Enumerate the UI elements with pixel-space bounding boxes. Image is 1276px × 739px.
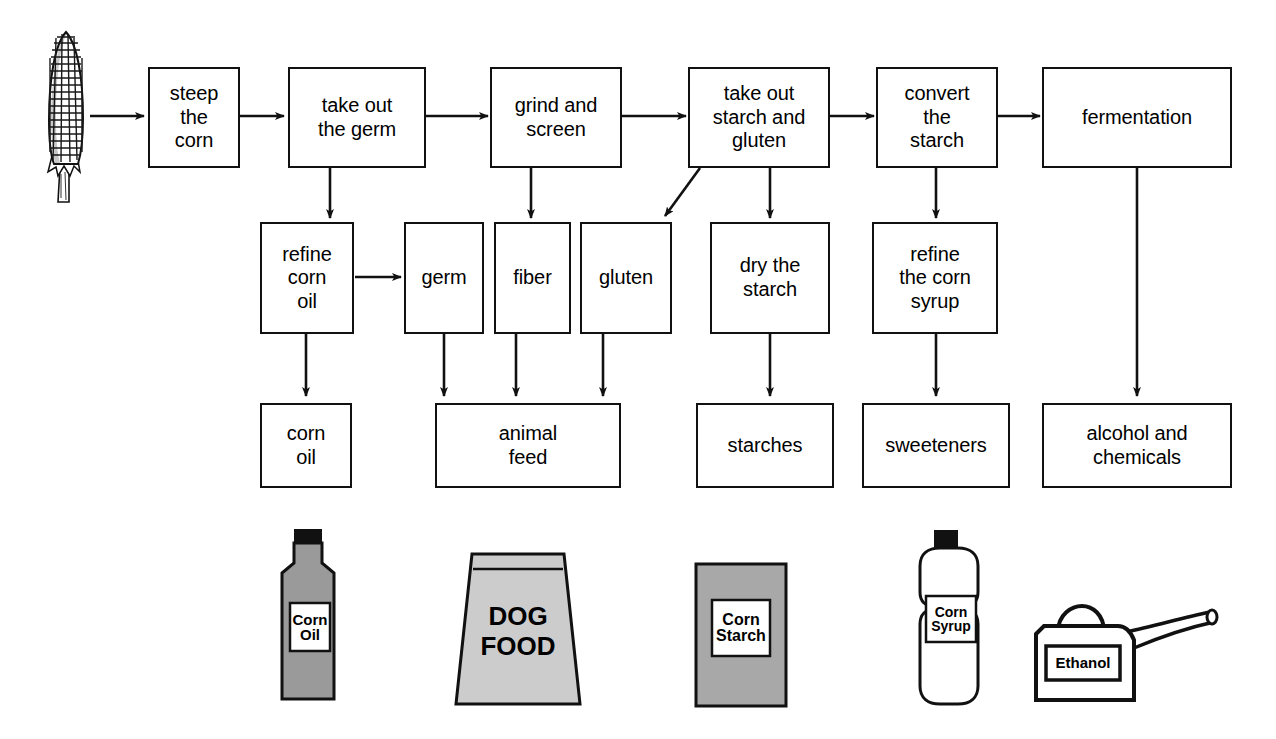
node-label: gluten <box>595 266 657 290</box>
node-take-out-starch-and-gluten[interactable]: take outstarch andgluten <box>688 67 830 168</box>
label-line-1: DOG <box>488 601 547 631</box>
node-label: dry thestarch <box>736 254 804 301</box>
node-take-out-the-germ[interactable]: take outthe germ <box>288 67 426 168</box>
node-label: fermentation <box>1078 106 1196 130</box>
node-corn-oil[interactable]: cornoil <box>260 403 352 488</box>
node-label: take outthe germ <box>314 94 400 141</box>
node-fermentation[interactable]: fermentation <box>1042 67 1232 168</box>
label-line-2: Syrup <box>931 619 971 633</box>
node-fiber[interactable]: fiber <box>494 222 571 334</box>
node-label: grind andscreen <box>511 94 602 141</box>
corn-cob-illustration <box>36 24 96 204</box>
label-line-2: Starch <box>716 628 766 644</box>
node-dry-the-starch[interactable]: dry thestarch <box>710 222 830 334</box>
node-refine-the-corn-syrup[interactable]: refinethe cornsyrup <box>872 222 998 334</box>
node-label: refinecornoil <box>278 243 335 314</box>
node-starches[interactable]: starches <box>696 403 834 488</box>
node-steep-the-corn[interactable]: steepthecorn <box>148 67 240 168</box>
ethanol-label-text: Ethanol <box>1046 646 1120 680</box>
dog-food-bag-illustration: DOG FOOD <box>448 550 588 710</box>
flowchart-canvas: steepthecorn take outthe germ grind ands… <box>0 0 1276 739</box>
label-line-1: Ethanol <box>1056 655 1111 670</box>
ethanol-can-illustration: Ethanol <box>1014 596 1224 710</box>
node-animal-feed[interactable]: animalfeed <box>435 403 621 488</box>
spout <box>1126 612 1214 648</box>
node-label: alcohol andchemicals <box>1082 422 1191 469</box>
node-sweeteners[interactable]: sweeteners <box>862 403 1010 488</box>
corn-syrup-label-text: Corn Syrup <box>926 596 976 642</box>
label-line-1: Corn <box>722 612 759 628</box>
node-label: refinethe cornsyrup <box>895 243 974 314</box>
node-label: germ <box>417 266 470 290</box>
node-label: fiber <box>509 266 555 290</box>
corn-oil-bottle-illustration: Corn Oil <box>254 525 364 710</box>
node-refine-corn-oil[interactable]: refinecornoil <box>260 222 354 334</box>
corn-syrup-bottle-illustration: Corn Syrup <box>896 528 1006 710</box>
node-alcohol-and-chemicals[interactable]: alcohol andchemicals <box>1042 403 1232 488</box>
node-convert-the-starch[interactable]: convertthestarch <box>876 67 998 168</box>
node-grind-and-screen[interactable]: grind andscreen <box>490 67 622 168</box>
node-label: steepthecorn <box>166 82 222 153</box>
corn-starch-box-illustration: Corn Starch <box>690 560 800 710</box>
node-label: sweeteners <box>881 434 990 458</box>
node-gluten[interactable]: gluten <box>580 222 672 334</box>
node-label: take outstarch andgluten <box>709 82 809 153</box>
dog-food-label-text: DOG FOOD <box>468 600 568 662</box>
label-line-1: Corn <box>935 605 968 619</box>
arrow-starchout-to-gluten <box>665 168 700 216</box>
label-line-1: Corn <box>293 612 328 627</box>
label-line-2: FOOD <box>480 631 555 661</box>
node-label: convertthestarch <box>901 82 974 153</box>
node-label: starches <box>724 434 807 458</box>
corn-starch-label-text: Corn Starch <box>712 600 770 656</box>
node-label: animalfeed <box>495 422 561 469</box>
node-label: cornoil <box>283 422 330 469</box>
corn-oil-label-text: Corn Oil <box>290 603 330 651</box>
node-germ[interactable]: germ <box>404 222 484 334</box>
label-line-2: Oil <box>300 627 320 642</box>
